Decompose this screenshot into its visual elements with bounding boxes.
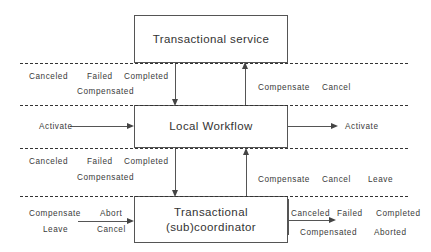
local-workflow-label: Local Workflow	[169, 119, 252, 134]
label-upper-compensate: Compensate	[258, 83, 310, 92]
arrow-workflow-to-service	[242, 62, 248, 69]
arrow-workflow-to-coordinator	[172, 190, 178, 197]
label-lower-completed: Completed	[124, 157, 169, 166]
label-lower-failed: Failed	[87, 157, 113, 166]
transactional-subcoordinator-box: Transactional (sub)coordinator	[134, 196, 288, 243]
local-workflow-box: Local Workflow	[134, 105, 288, 148]
label-bottom-leave: Leave	[43, 225, 68, 234]
coordinator-right-edge-stub	[288, 199, 289, 235]
connector-workflow-to-coordinator-line	[175, 147, 176, 192]
dashed-separator-3	[20, 148, 408, 149]
connector-coordinator-to-workflow-line	[246, 154, 247, 197]
label-lower-leave: Leave	[368, 175, 393, 184]
label-bottom-aborted: Aborted	[374, 228, 407, 237]
connector-service-to-workflow-line	[175, 62, 176, 101]
connector-abort-cancel-in-line	[78, 221, 130, 222]
label-upper-failed: Failed	[87, 72, 113, 81]
label-lower-cancel: Cancel	[322, 175, 351, 184]
label-lower-compensate: Compensate	[258, 175, 310, 184]
label-lower-canceled: Canceled	[29, 157, 68, 166]
layered-interaction-diagram: Transactional service Local Workflow Tra…	[0, 0, 431, 252]
arrow-abort-cancel-in	[127, 218, 134, 224]
label-bottom-completed: Completed	[376, 209, 421, 218]
coordinator-label-line-2: (sub)coordinator	[166, 221, 256, 233]
connector-coordinator-outcome-line	[288, 220, 332, 221]
transactional-service-box: Transactional service	[134, 15, 288, 63]
arrow-activate-in	[127, 123, 134, 129]
dashed-separator-4	[20, 196, 408, 197]
arrow-coordinator-outcome	[329, 217, 336, 223]
label-bottom-canceled: Canceled	[291, 209, 330, 218]
label-activate-out: Activate	[345, 122, 379, 131]
coordinator-label-line-1: Transactional	[174, 206, 248, 218]
label-bottom-compensate: Compensate	[29, 209, 81, 218]
label-upper-cancel: Cancel	[322, 83, 351, 92]
label-upper-compensated: Compensated	[77, 87, 134, 96]
label-bottom-cancel: Cancel	[97, 225, 126, 234]
label-upper-completed: Completed	[124, 72, 169, 81]
label-bottom-failed: Failed	[337, 209, 363, 218]
label-lower-compensated: Compensated	[77, 173, 134, 182]
dashed-separator-2	[20, 105, 408, 106]
connector-activate-out-line	[288, 126, 334, 127]
label-upper-canceled: Canceled	[29, 72, 68, 81]
label-bottom-abort: Abort	[100, 209, 122, 218]
label-bottom-compensated: Compensated	[300, 228, 357, 237]
transactional-subcoordinator-label: Transactional (sub)coordinator	[166, 205, 256, 235]
arrow-coordinator-to-workflow	[243, 148, 249, 155]
connector-workflow-to-service-line	[245, 68, 246, 106]
label-activate-in: Activate	[39, 122, 73, 131]
dashed-separator-1	[20, 63, 408, 64]
transactional-service-label: Transactional service	[153, 32, 270, 47]
connector-activate-in-line	[70, 126, 130, 127]
arrow-service-to-workflow	[172, 99, 178, 106]
arrow-activate-out	[331, 123, 338, 129]
